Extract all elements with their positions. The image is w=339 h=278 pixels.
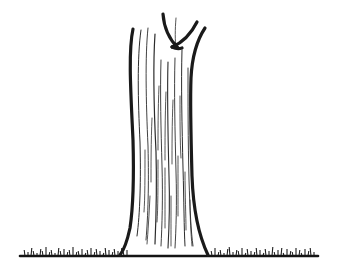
tree-scene-canvas bbox=[0, 0, 339, 278]
background-rect bbox=[0, 0, 339, 278]
fork-notch-tip bbox=[172, 47, 182, 49]
tree-illustration: A simple black-and-white ink drawing of … bbox=[0, 0, 339, 278]
